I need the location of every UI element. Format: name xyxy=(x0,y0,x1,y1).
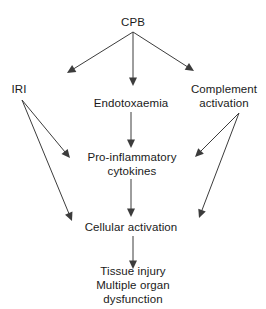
node-cpb: CPB xyxy=(121,15,145,29)
edge-line-complement-to-cellular xyxy=(201,113,239,211)
node-cellular-activation: Cellular activation xyxy=(85,220,178,234)
arrowhead-cpb-to-complement xyxy=(185,63,194,71)
edge-line-iri-to-cellular xyxy=(22,100,69,215)
flowchart-diagram: CPB IRI Endotoxaemia Complement activati… xyxy=(0,0,266,309)
arrowhead-cpb-to-endotoxaemia xyxy=(129,78,137,87)
node-tissue-injury-outcome: Tissue injury Multiple organ dysfunction xyxy=(67,264,200,306)
node-iri: IRI xyxy=(12,82,27,96)
node-endotoxaemia: Endotoxaemia xyxy=(94,96,169,110)
edge-line-complement-to-cytokines xyxy=(200,113,239,152)
arrowhead-iri-to-cytokines xyxy=(61,149,70,158)
node-complement-activation: Complement activation xyxy=(191,82,257,110)
edge-line-cpb-to-iri xyxy=(73,32,133,69)
edge-line-cpb-to-complement xyxy=(133,32,188,67)
arrowhead-endotoxaemia-to-cytokines xyxy=(127,140,135,149)
node-pro-inflammatory-cytokines: Pro-inflammatory cytokines xyxy=(87,150,176,178)
arrowhead-cytokines-to-cellular xyxy=(127,209,135,218)
arrowhead-cpb-to-iri xyxy=(67,65,76,73)
edge-line-iri-to-cytokines xyxy=(22,100,66,153)
